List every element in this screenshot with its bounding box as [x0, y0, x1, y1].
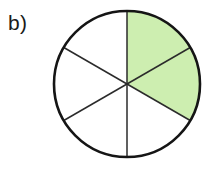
- pie-circle-diagram: [0, 0, 209, 175]
- figure-panel: b): [0, 0, 209, 175]
